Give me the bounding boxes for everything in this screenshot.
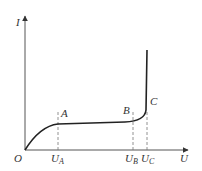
tick-ub: UB [125,152,138,166]
x-axis-label: U [180,152,189,164]
point-c-label: C [150,95,158,107]
iu-diagram: I O U A B C UA UB UC [0,0,202,171]
point-b-label: B [123,104,130,116]
iu-curve [25,50,147,150]
tick-uc: UC [141,152,155,166]
point-a-label: A [60,107,68,119]
y-axis-label: I [15,16,21,28]
origin-label: O [14,152,22,164]
tick-ua: UA [51,152,64,166]
